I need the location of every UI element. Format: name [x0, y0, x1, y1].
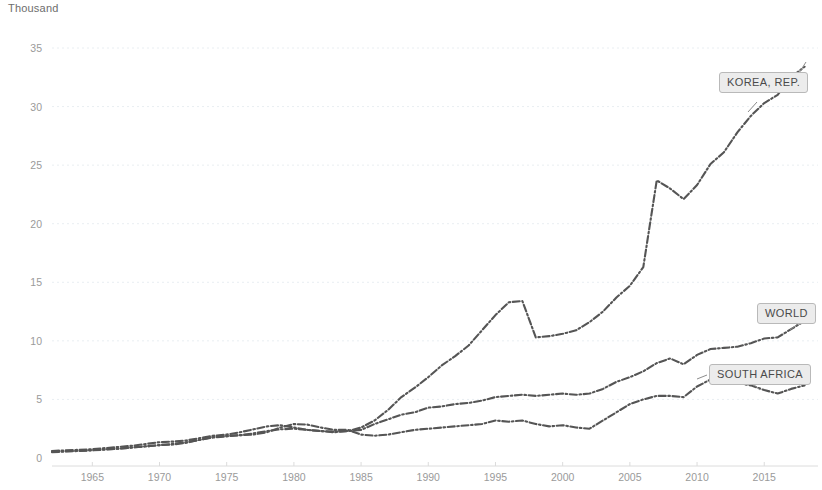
x-tick-label-1965: 1965 — [81, 471, 105, 483]
gridlines-group — [52, 48, 818, 399]
y-axis-tick-labels: 05101520253035 — [30, 42, 42, 464]
y-tick-label-25: 25 — [30, 159, 42, 171]
x-tick-label-1975: 1975 — [215, 471, 239, 483]
y-tick-label-0: 0 — [36, 452, 42, 464]
series-label-south-africa[interactable]: SOUTH AFRICA — [709, 364, 811, 385]
x-tick-label-1970: 1970 — [148, 471, 172, 483]
series-line-korea-rep — [52, 67, 805, 451]
y-tick-label-10: 10 — [30, 335, 42, 347]
leader-south-africa-left — [697, 375, 707, 379]
chart-plot-area: 05101520253035 1965197019751980198519901… — [0, 0, 822, 490]
x-tick-label-1980: 1980 — [282, 471, 306, 483]
x-tick-label-2005: 2005 — [618, 471, 642, 483]
x-tick-label-1985: 1985 — [349, 471, 373, 483]
series-label-korea[interactable]: KOREA, REP. — [719, 72, 808, 93]
series-lines-group — [52, 67, 805, 452]
y-tick-label-5: 5 — [36, 393, 42, 405]
y-tick-label-15: 15 — [30, 276, 42, 288]
y-tick-label-35: 35 — [30, 42, 42, 54]
x-tick-label-1990: 1990 — [417, 471, 441, 483]
x-tick-label-2000: 2000 — [551, 471, 575, 483]
x-axis-line — [52, 462, 818, 466]
y-tick-label-30: 30 — [30, 101, 42, 113]
x-tick-label-1995: 1995 — [484, 471, 508, 483]
y-tick-label-20: 20 — [30, 218, 42, 230]
x-axis-tick-labels: 1965197019751980198519901995200020052010… — [81, 471, 776, 483]
series-label-world[interactable]: WORLD — [757, 303, 816, 324]
x-tick-label-2010: 2010 — [685, 471, 709, 483]
chart-container: Thousand 05101520253035 1965197019751980… — [0, 0, 822, 490]
x-tick-label-2015: 2015 — [753, 471, 777, 483]
